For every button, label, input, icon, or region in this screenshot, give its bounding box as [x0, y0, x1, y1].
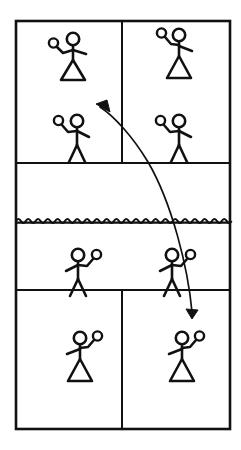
racket-icon: [49, 38, 58, 47]
player-arm-left: [66, 265, 78, 271]
player-near-left-back[interactable]: [67, 331, 102, 381]
racket-icon: [54, 116, 63, 125]
player-head: [74, 332, 86, 344]
player-arm-left: [57, 47, 73, 53]
diagram-canvas: Doubles tennis court play diagram: [0, 0, 241, 450]
court-diagram-svg: Doubles tennis court play diagram: [0, 0, 241, 450]
net: [16, 219, 232, 223]
racket-icon: [156, 116, 165, 125]
player-arm-left: [169, 349, 182, 354]
player-near-left-net[interactable]: [66, 249, 101, 296]
player-far-right-back[interactable]: [157, 28, 192, 78]
racket-icon: [92, 250, 101, 259]
player-leg-right: [179, 145, 187, 162]
player-head: [173, 115, 185, 127]
player-head: [67, 33, 79, 45]
player-skirt: [167, 56, 191, 78]
player-head: [173, 29, 185, 41]
player-arm-left: [160, 265, 172, 271]
player-leg-left: [70, 279, 78, 296]
player-head: [71, 115, 83, 127]
player-leg-right: [77, 145, 85, 162]
player-head: [176, 332, 188, 344]
player-leg-right: [78, 279, 86, 296]
racket-icon: [157, 28, 166, 37]
player-arm-right: [73, 50, 86, 54]
player-arm-right: [179, 46, 192, 51]
player-far-left-net[interactable]: [54, 115, 89, 162]
player-arm-right: [179, 131, 191, 137]
player-arm-left: [67, 349, 80, 354]
player-near-right-back[interactable]: [169, 331, 204, 381]
up-arrowhead-icon: [96, 100, 110, 112]
racket-icon: [93, 331, 102, 340]
player-leg-right: [172, 279, 180, 296]
player-leg-left: [69, 145, 77, 162]
player-leg-left: [171, 145, 179, 162]
player-skirt: [68, 359, 92, 381]
player-far-right-net[interactable]: [156, 115, 191, 162]
player-far-left-back[interactable]: [49, 33, 86, 80]
racket-icon: [186, 250, 195, 259]
player-arm-right: [77, 131, 89, 137]
player-skirt: [61, 60, 85, 80]
player-leg-left: [164, 279, 172, 296]
player-head: [72, 249, 84, 261]
down-arrowhead-icon: [186, 309, 198, 319]
racket-icon: [195, 331, 204, 340]
player-head: [166, 249, 178, 261]
player-skirt: [170, 359, 194, 381]
